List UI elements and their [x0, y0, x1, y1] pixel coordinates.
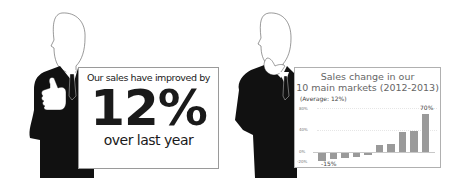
- annotation-max: 70%: [420, 104, 433, 111]
- y-tick-0: 0%: [299, 149, 305, 154]
- chart-title-line1: Sales change in our: [295, 71, 440, 82]
- gridline-80: [317, 108, 437, 109]
- announcement-sign: Our sales have improved by 12% over last…: [78, 67, 219, 169]
- sign-percentage: 12%: [79, 84, 218, 132]
- chart-title-line2: 10 main markets (2012-2013): [295, 82, 440, 93]
- chart-sign: Sales change in our 10 main markets (201…: [294, 67, 441, 168]
- gridline-40: [317, 130, 437, 131]
- y-tick-neg20: -20%: [297, 159, 307, 164]
- bar-m10: [422, 114, 430, 153]
- bar-m8: [399, 132, 407, 152]
- bar-m7: [387, 144, 395, 152]
- y-tick-80: 80%: [299, 106, 308, 111]
- bar-m9: [410, 131, 418, 152]
- y-tick-40: 40%: [299, 127, 308, 132]
- bar-m4: [353, 153, 361, 157]
- bar-m2: [330, 153, 338, 159]
- left-panel: Our sales have improved by 12% over last…: [0, 0, 225, 187]
- bar-m6: [376, 145, 384, 152]
- annotation-min: -15%: [321, 160, 337, 167]
- bar-m5: [364, 153, 372, 155]
- bar-m3: [341, 153, 349, 158]
- chart-subtitle: (Average: 12%): [300, 95, 440, 102]
